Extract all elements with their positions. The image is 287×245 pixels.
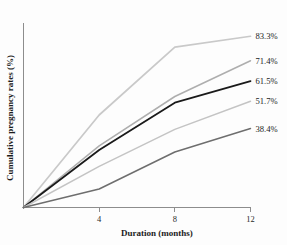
- y-axis-title: Cumulative pregnancy rates (%): [5, 55, 15, 181]
- series-line-71.4%: [24, 61, 251, 208]
- plot-axes: [24, 23, 251, 212]
- x-tick-label-4: 4: [97, 214, 102, 224]
- series-end-labels: 83.3%71.4%61.5%51.7%38.4%: [256, 31, 278, 133]
- series-label-51.7%: 51.7%: [256, 96, 278, 106]
- series-label-61.5%: 61.5%: [256, 76, 278, 86]
- series-lines: [24, 36, 251, 207]
- line-chart: 4812 83.3%71.4%61.5%51.7%38.4% Duration …: [0, 0, 287, 245]
- series-label-83.3%: 83.3%: [256, 31, 278, 41]
- chart-figure: 4812 83.3%71.4%61.5%51.7%38.4% Duration …: [0, 0, 287, 245]
- x-tick-label-8: 8: [173, 214, 177, 224]
- series-line-51.7%: [24, 101, 251, 207]
- series-label-71.4%: 71.4%: [256, 56, 278, 66]
- x-axis-ticks: [99, 208, 250, 212]
- x-axis-title: Duration (months): [121, 228, 193, 238]
- x-tick-label-12: 12: [246, 214, 255, 224]
- x-axis-tick-labels: 4812: [97, 214, 255, 224]
- series-label-38.4%: 38.4%: [256, 124, 278, 134]
- series-line-38.4%: [24, 129, 251, 208]
